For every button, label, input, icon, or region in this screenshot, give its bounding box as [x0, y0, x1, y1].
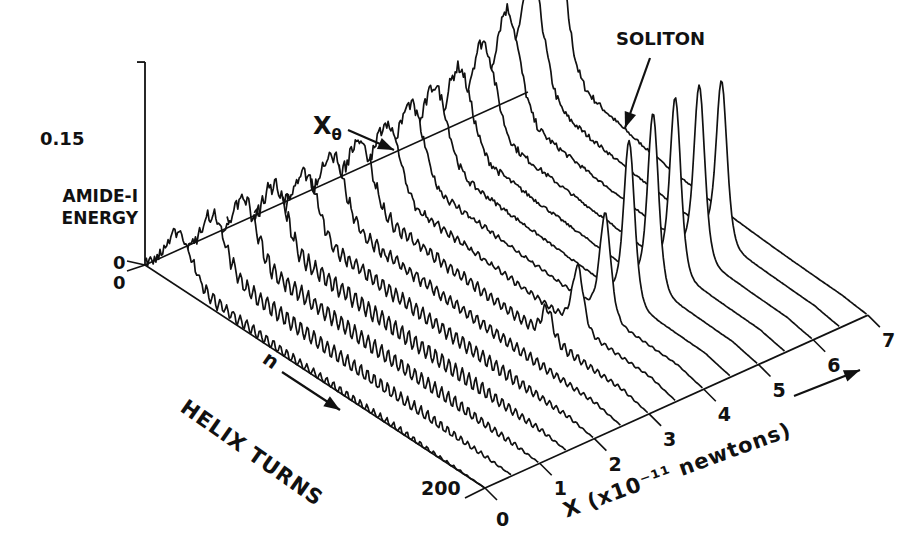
x-tick-label: 2	[608, 453, 621, 475]
energy-axis-title: AMIDE-I ENERGY	[28, 185, 138, 229]
arrow-head-icon	[625, 111, 636, 128]
axis-line	[485, 488, 497, 500]
x-tick-label: 1	[554, 477, 567, 499]
axis-line	[649, 414, 661, 426]
arrow-head-icon	[843, 370, 860, 381]
soliton-annotation: SOLITON	[616, 28, 705, 49]
n-tick-max: 200	[421, 477, 461, 499]
axis-line	[813, 340, 825, 352]
arrow-head-icon	[323, 396, 340, 410]
x-tick-label: 4	[718, 403, 731, 425]
x-tick-label: 6	[827, 354, 840, 376]
n-tick-zero: 0	[113, 272, 126, 293]
axis-line	[704, 389, 716, 401]
energy-tick-max: 0.15	[40, 128, 84, 149]
waterfall-chart	[0, 0, 917, 555]
axis-line	[594, 439, 606, 451]
energy-axis-title-line2: ENERGY	[28, 207, 138, 229]
x-tick-label: 0	[496, 508, 509, 530]
axis-line	[759, 365, 771, 377]
energy-axis-title-line1: AMIDE-I	[28, 185, 138, 207]
axis-line	[127, 265, 145, 271]
axis-line	[540, 463, 552, 475]
x-theta-sub: θ	[332, 126, 342, 144]
energy-traces	[145, 0, 868, 488]
axis-line	[868, 315, 880, 327]
x-tick-label: 7	[882, 329, 895, 351]
x-theta-annotation: Xθ	[313, 112, 342, 144]
x-tick-label: 5	[773, 379, 786, 401]
x-tick-label: 3	[663, 428, 676, 450]
axis-line	[127, 261, 145, 265]
axis-line	[465, 488, 485, 498]
energy-tick-zero: 0	[113, 252, 126, 273]
x-theta-main: X	[313, 112, 332, 140]
